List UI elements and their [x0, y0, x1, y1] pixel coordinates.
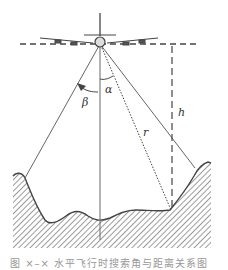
alpha-label: α — [105, 84, 112, 95]
range-label: r — [143, 127, 148, 138]
figure-caption: 图 ×–× 水平飞行时搜索角与距离关系图 — [10, 258, 220, 270]
aircraft-icon — [40, 13, 158, 47]
alpha-angle-arc — [100, 76, 113, 79]
beam-left-line — [25, 44, 100, 178]
beta-label: β — [82, 97, 88, 108]
slant-range-dotted-line — [102, 48, 171, 210]
height-label: h — [178, 107, 185, 118]
terrain-hatched-ground — [13, 162, 211, 248]
